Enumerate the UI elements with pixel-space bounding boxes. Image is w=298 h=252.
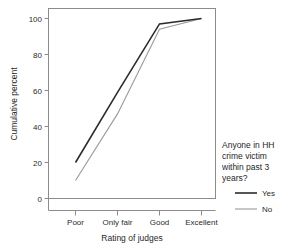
legend-label-yes: Yes bbox=[262, 189, 275, 198]
y-tick-label: 20 bbox=[33, 159, 42, 168]
y-tick-label: 80 bbox=[33, 51, 42, 60]
legend-title-line: crime victim bbox=[222, 151, 267, 161]
legend-label-no: No bbox=[262, 205, 273, 214]
x-tick-label-excellent: Excellent bbox=[185, 218, 218, 227]
legend-title-line: Anyone in HH bbox=[222, 140, 274, 150]
chart-canvas: 100 80 60 40 20 0 Cumulative percent Poo… bbox=[0, 0, 298, 252]
x-tick-label-only-fair: Only fair bbox=[103, 218, 133, 227]
y-tick-label: 100 bbox=[29, 15, 43, 24]
y-tick-label: 0 bbox=[38, 195, 43, 204]
legend-title-line: within past 3 bbox=[221, 162, 270, 172]
legend-title-line: years? bbox=[222, 173, 248, 183]
y-axis-title: Cumulative percent bbox=[9, 67, 19, 141]
chart-figure: 100 80 60 40 20 0 Cumulative percent Poo… bbox=[0, 0, 298, 252]
x-axis-title: Rating of judges bbox=[101, 233, 162, 243]
y-tick-label: 60 bbox=[33, 87, 42, 96]
x-tick-label-good: Good bbox=[150, 218, 170, 227]
x-tick-label-poor: Poor bbox=[67, 218, 84, 227]
y-tick-label: 40 bbox=[33, 123, 42, 132]
